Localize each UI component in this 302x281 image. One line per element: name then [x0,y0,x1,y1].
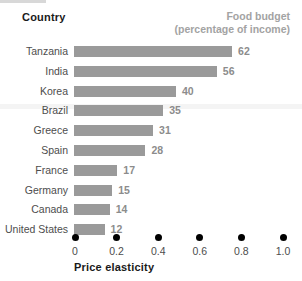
bar-row-country-label: India [0,65,68,77]
x-axis-dot [238,234,245,241]
bar-value-label: 15 [118,184,130,196]
bar [74,86,176,97]
bar-row: Brazil35 [0,103,302,123]
bar-value-label: 35 [169,104,181,116]
bar-value-label: 17 [123,164,135,176]
bar-row-country-label: Brazil [0,104,68,116]
bar-row: Spain28 [0,143,302,163]
bar-row: Canada14 [0,202,302,222]
bar-row-country-label: Germany [0,184,68,196]
food-budget-title-line1: Food budget [226,10,290,22]
x-axis-title: Price elasticity [74,261,154,273]
x-axis: 00.20.40.60.81.0 Price elasticity [0,230,302,281]
bar-value-label: 14 [116,203,128,215]
x-axis-tick-label: 0 [58,245,92,257]
bar [74,105,163,116]
scan-artifact-top [0,0,46,3]
x-axis-tick-label: 0.4 [141,245,175,257]
x-axis-dot [113,234,120,241]
bar-row: Tanzania62 [0,44,302,64]
bar-row: Greece31 [0,123,302,143]
bar-value-label: 31 [159,124,171,136]
bar [74,165,117,176]
x-axis-dot [196,234,203,241]
bar-row-country-label: Spain [0,144,68,156]
bar [74,185,112,196]
column-header-country: Country [22,11,66,23]
x-axis-dot [280,234,287,241]
bar-row-country-label: France [0,164,68,176]
bar-value-label: 56 [223,65,235,77]
bar-row: France17 [0,163,302,183]
bar [74,125,153,136]
bar-value-label: 28 [151,144,163,156]
bar-value-label: 40 [182,85,194,97]
bar [74,66,217,77]
x-axis-dot [72,234,79,241]
food-budget-bar-chart: Country Food budget (percentage of incom… [0,0,302,281]
bar [74,46,232,57]
bar-rows: Tanzania62India56Korea40Brazil35Greece31… [0,44,302,230]
bar-row: India56 [0,64,302,84]
bar-value-label: 62 [238,45,250,57]
bar-row-country-label: Tanzania [0,45,68,57]
x-axis-dot [155,234,162,241]
x-axis-tick-label: 0.6 [183,245,217,257]
bar [74,145,145,156]
x-axis-tick-label: 1.0 [266,245,300,257]
column-header-food-budget: Food budget (percentage of income) [100,10,290,36]
food-budget-title-line2: (percentage of income) [100,23,290,36]
bar-row-country-label: Greece [0,124,68,136]
bar-row: Germany15 [0,183,302,203]
bar-row: Korea40 [0,84,302,104]
x-axis-tick-label: 0.8 [224,245,258,257]
x-axis-tick-label: 0.2 [100,245,134,257]
bar-row-country-label: Canada [0,203,68,215]
bar-row-country-label: Korea [0,85,68,97]
bar [74,204,110,215]
